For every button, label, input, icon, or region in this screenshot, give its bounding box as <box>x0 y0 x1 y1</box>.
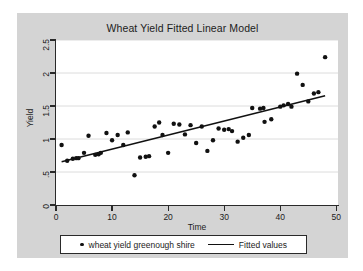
x-tick-mark <box>111 206 112 211</box>
x-axis-title: Time <box>56 222 338 232</box>
data-point <box>235 139 239 143</box>
chart-figure: Wheat Yield Fitted Linear Model Yield Ti… <box>17 13 348 258</box>
x-tick-label: 30 <box>212 212 236 222</box>
data-point <box>300 83 304 87</box>
y-tick-label: .5 <box>41 171 51 201</box>
data-point <box>110 138 114 142</box>
filled-circle-icon <box>80 243 84 247</box>
data-point <box>99 151 103 155</box>
y-tick-label: 2.5 <box>41 39 51 69</box>
data-point <box>76 156 80 160</box>
data-point <box>216 126 220 130</box>
data-point <box>261 106 265 110</box>
chart-title: Wheat Yield Fitted Linear Model <box>17 22 348 34</box>
data-point <box>160 133 164 137</box>
data-point <box>188 123 192 127</box>
data-point <box>82 151 86 155</box>
x-axis-line <box>55 205 339 206</box>
data-point <box>323 55 327 59</box>
data-point <box>157 120 161 124</box>
data-point <box>147 154 151 158</box>
data-point <box>121 143 125 147</box>
data-point <box>281 103 285 107</box>
data-point <box>194 141 198 145</box>
data-point <box>211 138 215 142</box>
y-axis-title: Yield <box>25 98 35 138</box>
line-icon <box>208 244 234 245</box>
x-tick-label: 40 <box>268 212 292 222</box>
x-tick-mark <box>280 206 281 211</box>
data-point <box>177 122 181 126</box>
data-point <box>183 132 187 136</box>
data-point <box>269 117 273 121</box>
x-tick-label: 10 <box>100 212 124 222</box>
data-point <box>250 106 254 110</box>
x-tick-mark <box>224 206 225 211</box>
data-point <box>306 99 310 103</box>
data-point <box>200 124 204 128</box>
data-point <box>222 128 226 132</box>
x-tick-mark <box>336 206 337 211</box>
data-point <box>104 131 108 135</box>
data-point <box>166 151 170 155</box>
x-tick-label: 20 <box>156 212 180 222</box>
legend-label-scatter: wheat yield greenough shire <box>89 240 195 250</box>
plot-area <box>56 40 338 205</box>
data-point <box>316 90 320 94</box>
data-point <box>312 91 316 95</box>
chart-legend: wheat yield greenough shire Fitted value… <box>60 235 307 254</box>
data-point <box>115 133 119 137</box>
data-point <box>289 104 293 108</box>
y-tick-label: 1.5 <box>41 105 51 135</box>
x-tick-label: 0 <box>44 212 68 222</box>
x-tick-mark <box>55 206 56 211</box>
data-point <box>152 124 156 128</box>
data-point <box>86 134 90 138</box>
data-point <box>205 149 209 153</box>
data-point <box>172 122 176 126</box>
legend-entry-scatter: wheat yield greenough shire <box>80 240 195 250</box>
x-tick-mark <box>168 206 169 211</box>
x-tick-label: 50 <box>324 212 348 222</box>
legend-entry-line: Fitted values <box>208 240 287 250</box>
data-point <box>126 130 130 134</box>
data-point <box>138 155 142 159</box>
legend-label-line: Fitted values <box>239 240 287 250</box>
y-tick-label: 1 <box>41 138 51 168</box>
data-point <box>262 120 266 124</box>
data-point <box>65 159 69 163</box>
data-point <box>230 129 234 133</box>
data-point <box>132 173 136 177</box>
data-point <box>247 133 251 137</box>
y-tick-label: 2 <box>41 72 51 102</box>
data-point <box>241 135 245 139</box>
plot-canvas <box>56 40 338 205</box>
data-point <box>59 143 63 147</box>
data-point <box>295 71 299 75</box>
